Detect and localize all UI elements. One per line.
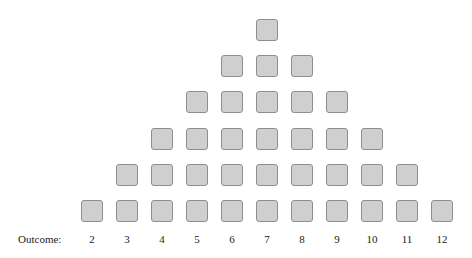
outcome-box	[361, 200, 383, 222]
outcome-box	[151, 200, 173, 222]
outcome-box	[221, 128, 243, 150]
outcome-label-5: 5	[182, 233, 212, 245]
outcome-box	[361, 128, 383, 150]
outcome-row-label: Outcome:	[18, 233, 61, 245]
outcome-label-3: 3	[112, 233, 142, 245]
outcome-box	[151, 128, 173, 150]
outcome-label-6: 6	[217, 233, 247, 245]
outcome-box	[256, 91, 278, 113]
outcome-label-8: 8	[287, 233, 317, 245]
outcome-label-9: 9	[322, 233, 352, 245]
outcome-box	[221, 164, 243, 186]
outcome-box	[221, 200, 243, 222]
outcome-box	[256, 128, 278, 150]
outcome-box	[431, 200, 453, 222]
outcome-box	[186, 200, 208, 222]
outcome-box	[151, 164, 173, 186]
outcome-label-7: 7	[252, 233, 282, 245]
outcome-box	[291, 164, 313, 186]
outcome-box	[291, 200, 313, 222]
outcome-box	[256, 200, 278, 222]
outcome-box	[221, 91, 243, 113]
outcome-box	[396, 200, 418, 222]
outcome-box	[326, 91, 348, 113]
outcome-box	[291, 128, 313, 150]
outcome-box	[396, 164, 418, 186]
outcome-box	[326, 128, 348, 150]
outcome-label-4: 4	[147, 233, 177, 245]
outcome-box	[81, 200, 103, 222]
outcome-box	[116, 200, 138, 222]
outcome-label-2: 2	[77, 233, 107, 245]
outcome-box	[256, 55, 278, 77]
outcome-label-12: 12	[427, 233, 457, 245]
outcome-box	[326, 200, 348, 222]
outcome-box	[256, 19, 278, 41]
outcome-box	[291, 91, 313, 113]
outcome-box	[256, 164, 278, 186]
outcome-box	[291, 55, 313, 77]
outcome-label-11: 11	[392, 233, 422, 245]
outcome-box	[186, 128, 208, 150]
outcome-label-10: 10	[357, 233, 387, 245]
outcome-box	[186, 91, 208, 113]
outcome-box	[221, 55, 243, 77]
outcome-box	[186, 164, 208, 186]
dice-sum-distribution-diagram: Outcome: 23456789101112	[0, 0, 472, 258]
outcome-box	[361, 164, 383, 186]
outcome-box	[326, 164, 348, 186]
outcome-box	[116, 164, 138, 186]
